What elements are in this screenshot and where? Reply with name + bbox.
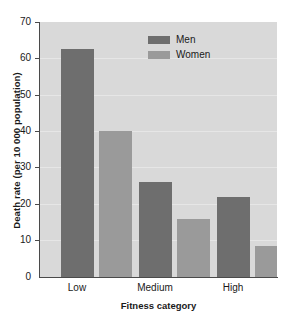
bar-chart: Death rate (per 10 000 population) 70 60… bbox=[0, 0, 293, 322]
x-axis-title: Fitness category bbox=[40, 300, 277, 311]
legend-swatch-men-icon bbox=[148, 36, 170, 44]
y-tick-label: 30 bbox=[0, 161, 31, 172]
y-tick-label: 10 bbox=[0, 234, 31, 245]
x-tick-label-low: Low bbox=[42, 282, 112, 293]
x-tick-label-medium: Medium bbox=[120, 282, 190, 293]
bar-men-high bbox=[217, 197, 250, 277]
y-tick-label: 70 bbox=[0, 16, 31, 27]
bar-women-low bbox=[99, 131, 132, 277]
y-tick-label: 60 bbox=[0, 52, 31, 63]
bar-men-medium bbox=[139, 182, 172, 277]
y-tick-label: 0 bbox=[0, 271, 31, 282]
y-axis-tick-labels: 70 60 50 40 30 20 10 0 bbox=[0, 0, 36, 322]
legend-label-women: Women bbox=[176, 50, 210, 60]
y-tick-label: 40 bbox=[0, 125, 31, 136]
legend-swatch-women-icon bbox=[148, 51, 170, 59]
bar-women-high bbox=[255, 246, 277, 277]
x-axis-line bbox=[39, 277, 278, 278]
plot-area: Men Women bbox=[40, 22, 277, 277]
x-tick-label-high: High bbox=[198, 282, 268, 293]
bar-women-medium bbox=[177, 219, 210, 277]
y-axis-line bbox=[39, 22, 40, 278]
legend-item-men: Men bbox=[148, 33, 210, 46]
legend-item-women: Women bbox=[148, 48, 210, 61]
y-tick-label: 20 bbox=[0, 198, 31, 209]
legend: Men Women bbox=[148, 33, 210, 63]
legend-label-men: Men bbox=[176, 35, 195, 45]
y-tick-label: 50 bbox=[0, 89, 31, 100]
bar-men-low bbox=[61, 49, 94, 277]
